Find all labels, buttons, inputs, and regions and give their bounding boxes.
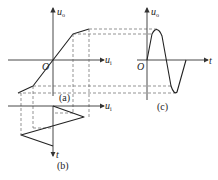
panel-a-caption: (a) [59,92,70,104]
projection-dashes-vertical [21,29,89,135]
panel-b-t-label: t [56,149,59,160]
panel-a-transfer-characteristic: uo ui O (a) [8,6,112,104]
panel-c-output-waveform: uo t O (c) [137,6,212,113]
panel-a-y-label: uo [57,6,65,18]
panel-c-caption: (c) [157,101,168,113]
diagram-canvas: uo ui O (a) ui t (b) uo t O (c) [0,0,218,180]
panel-a-x-label: ui [105,54,112,66]
panel-b-x-label: ui [105,100,112,112]
panel-a-origin-label: O [42,61,49,72]
panel-a-transfer-curve [18,29,89,93]
panel-c-t-label: t [209,55,212,66]
panel-c-y-label: uo [151,6,159,18]
panel-c-output-curve [147,30,186,93]
panel-c-origin-label: O [137,61,144,72]
panel-b-triangle-wave [21,106,84,146]
panel-b-input-waveform: ui t (b) [8,100,112,172]
panel-b-caption: (b) [57,160,69,172]
